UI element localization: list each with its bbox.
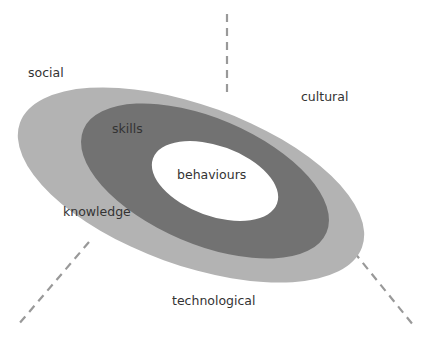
label-social: social xyxy=(28,65,64,80)
nested-ellipse-diagram: skills behaviours knowledge social cultu… xyxy=(0,0,431,342)
label-cultural: cultural xyxy=(301,89,348,104)
label-skills: skills xyxy=(112,121,143,136)
label-behaviours: behaviours xyxy=(177,167,246,182)
axis-divider-bottom-right xyxy=(354,252,414,326)
axis-divider-bottom-left xyxy=(18,242,89,325)
label-technological: technological xyxy=(172,293,256,308)
label-knowledge: knowledge xyxy=(63,204,131,219)
